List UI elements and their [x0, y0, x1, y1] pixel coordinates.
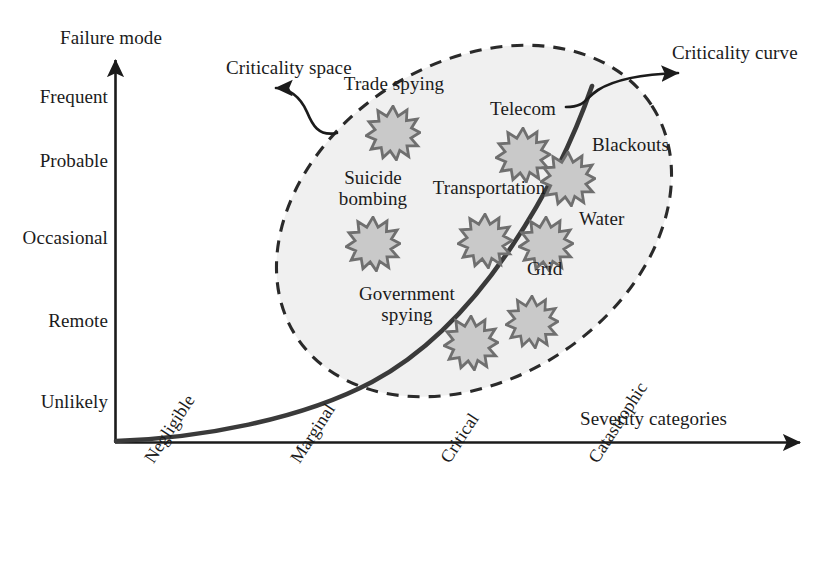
item-label-suicide-bombing-line1: Suicide: [344, 167, 402, 188]
item-label-suicide-bombing: Suicide bombing: [327, 167, 419, 210]
annotation-criticality-curve: Criticality curve: [672, 43, 798, 63]
y-tick-frequent: Frequent: [0, 87, 108, 107]
item-label-water: Water: [579, 209, 649, 229]
item-label-trade-spying: Trade spying: [339, 74, 449, 94]
criticality-space-leader: [276, 88, 337, 134]
annotation-criticality-space: Criticality space: [226, 58, 352, 78]
item-label-government-spying: Government spying: [345, 283, 469, 326]
item-label-government-spying-line1: Government: [359, 283, 455, 304]
y-tick-probable: Probable: [0, 151, 108, 171]
y-axis-title: Failure mode: [60, 28, 162, 48]
y-tick-occasional: Occasional: [0, 228, 108, 248]
item-label-transportation: Transportation: [419, 178, 559, 198]
item-label-government-spying-line2: spying: [381, 304, 432, 325]
item-label-suicide-bombing-line2: bombing: [339, 188, 407, 209]
item-label-blackouts: Blackouts: [592, 135, 692, 155]
item-label-telecom: Telecom: [478, 99, 568, 119]
criticality-diagram: Failure mode Severity categories Frequen…: [0, 0, 820, 569]
item-label-grid: Grid: [527, 259, 587, 279]
y-tick-unlikely: Unlikely: [0, 392, 108, 412]
y-tick-remote: Remote: [0, 311, 108, 331]
